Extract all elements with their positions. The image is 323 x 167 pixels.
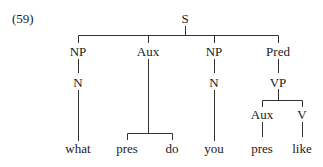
node-aux-1: Aux xyxy=(137,45,159,58)
node-np-1: NP xyxy=(70,45,87,58)
node-pred: Pred xyxy=(266,45,290,58)
node-n-2: N xyxy=(209,76,218,89)
leaf-like: like xyxy=(292,142,312,155)
leaf-you: you xyxy=(204,142,224,155)
node-aux-2: Aux xyxy=(251,108,273,121)
node-v: V xyxy=(297,108,306,121)
node-s: S xyxy=(181,12,188,25)
leaf-pres-2: pres xyxy=(251,142,273,155)
node-vp: VP xyxy=(270,76,287,89)
syntax-tree-diagram: (59) S NP Aux NP Pred N xyxy=(0,0,323,167)
node-np-2: NP xyxy=(206,45,223,58)
leaf-pres-1: pres xyxy=(116,142,138,155)
leaf-what: what xyxy=(65,142,90,155)
node-n-1: N xyxy=(73,76,82,89)
leaf-do: do xyxy=(166,142,179,155)
